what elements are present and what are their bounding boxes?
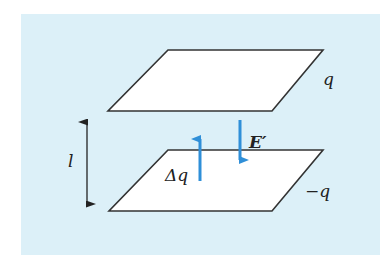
top-charge-label: q [323, 69, 334, 89]
top-plate [108, 50, 323, 111]
bottom-charge-label: −q [305, 181, 330, 201]
separation-label: l [68, 151, 73, 171]
field-label: E′ [248, 132, 267, 152]
bottom-plate [109, 150, 323, 211]
charge-transfer-label: Δq [164, 165, 188, 185]
capacitor-diagram: q −q l Δq E′ [0, 0, 380, 255]
